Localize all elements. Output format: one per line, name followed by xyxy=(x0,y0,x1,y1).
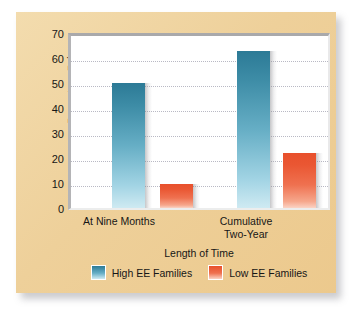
bar-side-shadow xyxy=(193,184,200,208)
bar-face xyxy=(237,51,270,209)
gridline-30 xyxy=(71,136,328,137)
y-tick-10: 10 xyxy=(34,179,64,189)
bar-high-ee-at-nine-months xyxy=(112,83,152,208)
bar-side-shadow xyxy=(316,153,323,208)
gridline-60 xyxy=(71,61,328,62)
y-tick-40: 40 xyxy=(34,104,64,114)
bar-high-ee-cumulative-two-year xyxy=(237,51,277,209)
y-tick-30: 30 xyxy=(34,129,64,139)
legend-label-low-ee: Low EE Families xyxy=(229,267,307,279)
y-tick-20: 20 xyxy=(34,154,64,164)
y-tick-70: 70 xyxy=(34,29,64,39)
x-category-label-cumulative-two-year: Cumulative Two-Year xyxy=(181,215,311,240)
legend-label-high-ee: High EE Families xyxy=(112,267,193,279)
bar-low-ee-at-nine-months xyxy=(160,184,200,208)
figure-card: Percentage Relapse 70 60 50 40 30 20 10 … xyxy=(16,12,336,293)
y-tick-60: 60 xyxy=(34,54,64,64)
legend-swatch-icon-low-ee xyxy=(208,265,223,280)
x-category-line-1: Cumulative xyxy=(181,215,311,228)
chart-legend: High EE Families Low EE Families xyxy=(68,265,330,280)
y-tick-0: 0 xyxy=(34,204,64,214)
x-axis-title: Length of Time xyxy=(68,247,330,259)
plot-area xyxy=(71,36,328,208)
y-tick-50: 50 xyxy=(34,79,64,89)
gridline-40 xyxy=(71,111,328,112)
bar-low-ee-cumulative-two-year xyxy=(283,153,323,208)
bar-face xyxy=(112,83,145,208)
legend-item-low-ee-families: Low EE Families xyxy=(208,265,307,280)
bar-face xyxy=(283,153,316,208)
y-axis-ticks: 70 60 50 40 30 20 10 0 xyxy=(28,33,64,210)
legend-swatch-icon-high-ee xyxy=(91,265,106,280)
legend-item-high-ee-families: High EE Families xyxy=(91,265,193,280)
bar-side-shadow xyxy=(270,51,277,209)
x-category-line-2: Two-Year xyxy=(181,228,311,241)
plot-frame xyxy=(68,33,330,210)
bar-face xyxy=(160,184,193,208)
x-category-label-at-nine-months: At Nine Months xyxy=(54,215,184,228)
gridline-50 xyxy=(71,86,328,87)
bar-side-shadow xyxy=(145,83,152,208)
